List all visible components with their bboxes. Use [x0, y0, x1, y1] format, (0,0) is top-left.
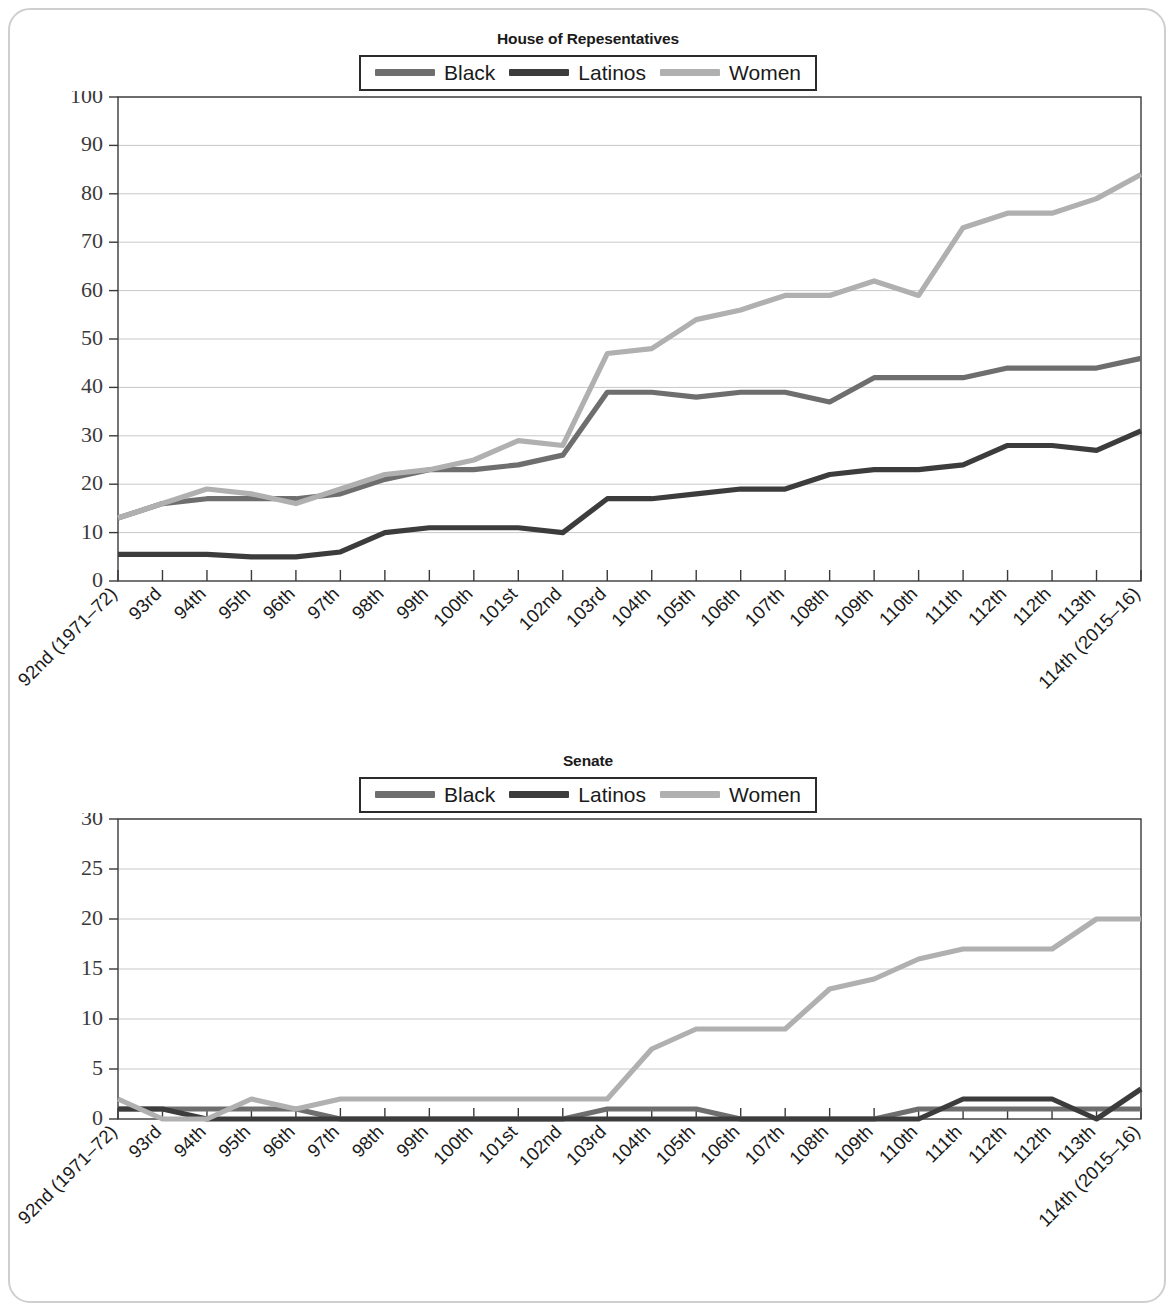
series-line-latinos	[118, 431, 1141, 557]
x-axis-tick-label: 102nd	[514, 1121, 565, 1172]
x-axis-tick-label: 103rd	[562, 583, 610, 631]
x-axis-tick-label: 92nd (1971–72)	[14, 583, 121, 690]
house-legend-swatch-women	[660, 69, 720, 76]
house-legend-swatch-black	[375, 69, 435, 76]
x-axis-tick-label: 95th	[214, 583, 254, 623]
x-axis-tick-label: 97th	[303, 583, 343, 623]
senate-legend-box: Black Latinos Women	[359, 777, 817, 813]
senate-legend: Black Latinos Women	[0, 777, 1176, 813]
house-plot-area: 010203040506070809010092nd (1971–72)93rd…	[0, 91, 1176, 691]
house-plot-svg: 010203040506070809010092nd (1971–72)93rd…	[0, 91, 1176, 691]
x-axis-tick-label: 104th	[607, 583, 655, 631]
house-legend-label-latinos: Latinos	[578, 62, 646, 83]
y-axis-tick-label: 20	[81, 470, 103, 495]
x-axis-tick-label: 112th	[1008, 1121, 1055, 1168]
senate-plot-svg: 05101520253092nd (1971–72)93rd94th95th96…	[0, 813, 1176, 1243]
x-axis-tick-label: 93rd	[124, 1121, 165, 1162]
x-axis-tick-label: 102nd	[514, 583, 565, 634]
x-axis-tick-label: 93rd	[124, 583, 165, 624]
x-axis-tick-label: 111th	[920, 583, 966, 629]
y-axis-tick-label: 60	[81, 277, 103, 302]
x-axis-tick-label: 109th	[829, 583, 877, 631]
y-axis-tick-label: 30	[81, 813, 103, 830]
x-axis-tick-label: 99th	[392, 1121, 432, 1161]
series-line-women	[118, 174, 1141, 518]
senate-legend-item-black[interactable]: Black	[375, 784, 495, 805]
y-axis-tick-label: 30	[81, 422, 103, 447]
senate-chart-block: Senate Black Latinos Women 0510152025309…	[0, 752, 1176, 1297]
senate-legend-item-women[interactable]: Women	[660, 784, 801, 805]
x-axis-tick-label: 108th	[785, 1121, 833, 1169]
house-legend-label-black: Black	[444, 62, 495, 83]
x-axis-tick-label: 98th	[347, 583, 387, 623]
x-axis-tick-label: 112th	[964, 583, 1011, 630]
house-legend-item-black[interactable]: Black	[375, 62, 495, 83]
x-axis-tick-label: 108th	[785, 583, 833, 631]
y-axis-tick-label: 80	[81, 180, 103, 205]
senate-legend-label-latinos: Latinos	[578, 784, 646, 805]
x-axis-tick-label: 100th	[429, 583, 477, 631]
y-axis-tick-label: 50	[81, 325, 103, 350]
house-legend-swatch-latinos	[509, 69, 569, 76]
x-axis-tick-label: 110th	[875, 583, 922, 630]
x-axis-tick-label: 96th	[258, 1121, 298, 1161]
x-axis-tick-label: 103rd	[562, 1121, 610, 1169]
x-axis-tick-label: 105th	[651, 1121, 699, 1169]
x-axis-tick-label: 95th	[214, 1121, 254, 1161]
x-axis-tick-label: 97th	[303, 1121, 343, 1161]
house-legend-item-latinos[interactable]: Latinos	[509, 62, 646, 83]
y-axis-tick-label: 70	[81, 228, 103, 253]
house-chart-block: House of Repesentatives Black Latinos Wo…	[0, 30, 1176, 745]
x-axis-tick-label: 94th	[169, 1121, 209, 1161]
y-axis-tick-label: 90	[81, 131, 103, 156]
y-axis-tick-label: 5	[92, 1055, 103, 1080]
senate-legend-swatch-black	[375, 791, 435, 798]
senate-plot-area: 05101520253092nd (1971–72)93rd94th95th96…	[0, 813, 1176, 1243]
house-chart-title: House of Repesentatives	[0, 30, 1176, 48]
x-axis-tick-label: 100th	[429, 1121, 477, 1169]
y-axis-tick-label: 20	[81, 905, 103, 930]
y-axis-tick-label: 40	[81, 373, 103, 398]
y-axis-tick-label: 10	[81, 519, 103, 544]
y-axis-tick-label: 10	[81, 1005, 103, 1030]
x-axis-tick-label: 104th	[607, 1121, 655, 1169]
y-axis-tick-label: 15	[81, 955, 103, 980]
x-axis-tick-label: 99th	[392, 583, 432, 623]
series-line-black	[118, 358, 1141, 518]
x-axis-tick-label: 92nd (1971–72)	[14, 1121, 121, 1228]
x-axis-tick-label: 106th	[696, 1121, 744, 1169]
x-axis-tick-label: 109th	[829, 1121, 877, 1169]
x-axis-tick-label: 98th	[347, 1121, 387, 1161]
house-legend-label-women: Women	[729, 62, 801, 83]
y-axis-tick-label: 100	[70, 91, 103, 108]
x-axis-tick-label: 96th	[258, 583, 298, 623]
x-axis-tick-label: 110th	[875, 1121, 922, 1168]
senate-legend-swatch-women	[660, 791, 720, 798]
x-axis-tick-label: 107th	[740, 583, 788, 631]
x-axis-tick-label: 101st	[474, 1121, 521, 1168]
senate-legend-item-latinos[interactable]: Latinos	[509, 784, 646, 805]
x-axis-tick-label: 111th	[920, 1121, 966, 1167]
senate-chart-title: Senate	[0, 752, 1176, 770]
senate-legend-label-black: Black	[444, 784, 495, 805]
house-legend-item-women[interactable]: Women	[660, 62, 801, 83]
house-legend-box: Black Latinos Women	[359, 55, 817, 91]
senate-legend-label-women: Women	[729, 784, 801, 805]
x-axis-tick-label: 106th	[696, 583, 744, 631]
x-axis-tick-label: 112th	[1008, 583, 1055, 630]
x-axis-tick-label: 94th	[169, 583, 209, 623]
senate-legend-swatch-latinos	[509, 791, 569, 798]
house-legend: Black Latinos Women	[0, 55, 1176, 91]
x-axis-tick-label: 101st	[474, 583, 521, 630]
x-axis-tick-label: 107th	[740, 1121, 788, 1169]
x-axis-tick-label: 112th	[964, 1121, 1011, 1168]
x-axis-tick-label: 105th	[651, 583, 699, 631]
y-axis-tick-label: 25	[81, 855, 103, 880]
